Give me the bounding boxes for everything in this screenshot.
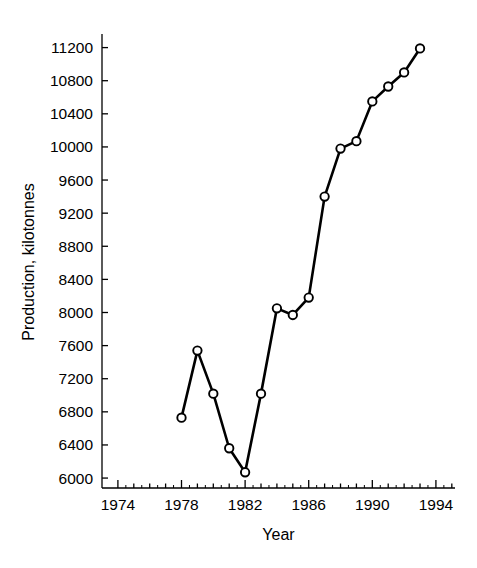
y-axis-title: Production, kilotonnes bbox=[20, 183, 37, 340]
line-chart: 6000640068007200760080008400880092009600… bbox=[0, 0, 477, 568]
data-point-marker bbox=[241, 468, 249, 476]
y-tick-label: 7200 bbox=[59, 370, 94, 387]
data-point-marker bbox=[416, 44, 424, 52]
data-point-marker bbox=[368, 97, 376, 105]
x-tick-label: 1974 bbox=[101, 496, 136, 513]
data-point-marker bbox=[289, 311, 297, 319]
data-point-marker bbox=[177, 413, 185, 421]
chart-canvas: 6000640068007200760080008400880092009600… bbox=[0, 0, 477, 568]
y-tick-label: 7600 bbox=[59, 337, 94, 354]
data-point-marker bbox=[352, 137, 360, 145]
data-point-marker bbox=[209, 389, 217, 397]
y-tick-label: 8800 bbox=[59, 238, 94, 255]
data-point-marker bbox=[384, 82, 392, 90]
data-point-marker bbox=[273, 304, 281, 312]
data-point-marker bbox=[305, 293, 313, 301]
data-point-marker bbox=[400, 68, 408, 76]
y-tick-label: 9600 bbox=[59, 172, 94, 189]
data-line bbox=[182, 48, 421, 472]
y-tick-label: 6000 bbox=[59, 470, 94, 487]
data-point-marker bbox=[336, 144, 344, 152]
x-tick-label: 1990 bbox=[355, 496, 390, 513]
y-tick-label: 6400 bbox=[59, 436, 94, 453]
x-tick-label: 1986 bbox=[291, 496, 325, 513]
y-tick-label: 11200 bbox=[51, 39, 93, 56]
y-tick-label: 9200 bbox=[59, 205, 94, 222]
y-tick-label: 8400 bbox=[59, 271, 94, 288]
y-tick-label: 6800 bbox=[59, 403, 94, 420]
data-point-marker bbox=[320, 192, 328, 200]
x-tick-label: 1982 bbox=[228, 496, 262, 513]
data-point-marker bbox=[193, 346, 201, 354]
y-tick-label: 10000 bbox=[50, 138, 93, 155]
x-tick-label: 1978 bbox=[164, 496, 198, 513]
x-tick-label: 1994 bbox=[419, 496, 454, 513]
x-axis-title: Year bbox=[262, 526, 295, 543]
y-tick-label: 10400 bbox=[50, 105, 93, 122]
data-point-marker bbox=[257, 389, 265, 397]
data-point-marker bbox=[225, 444, 233, 452]
y-tick-label: 10800 bbox=[50, 72, 93, 89]
y-tick-label: 8000 bbox=[59, 304, 94, 321]
